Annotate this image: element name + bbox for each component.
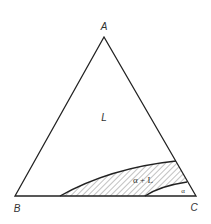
region-label-alpha: α (181, 187, 185, 195)
alpha-plus-liquid-region (60, 161, 187, 196)
vertex-label-b: B (14, 203, 21, 214)
vertex-label-c: C (190, 202, 198, 213)
region-label-alpha-plus-liquid: α + L (133, 175, 153, 185)
ternary-phase-diagram: A B C L α + L α (0, 0, 211, 224)
region-label-liquid: L (101, 112, 107, 123)
vertex-label-a: A (100, 21, 108, 32)
